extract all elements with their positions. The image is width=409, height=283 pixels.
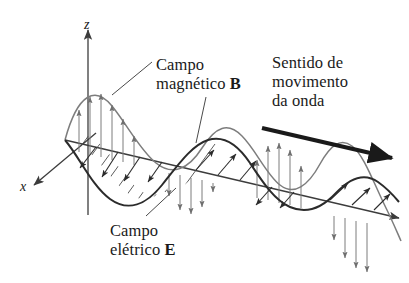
- x-axis-label: x: [20, 180, 26, 194]
- magnetic-vectors-lobe-4: [334, 216, 367, 272]
- magnetic-field-label-line2: magnético B: [156, 74, 241, 93]
- electric-field-wave: [60, 120, 399, 230]
- magnetic-field-label-line1: Campo: [156, 55, 241, 74]
- wave-direction-label-line1: Sentido de: [272, 53, 348, 72]
- magnetic-field-label: Campo magnético B: [156, 55, 241, 93]
- magnetic-field-label-word: magnético: [156, 74, 226, 93]
- electric-vectors: [80, 147, 390, 210]
- electric-field-label-line1: Campo: [110, 221, 176, 240]
- electric-field-label: Campo elétrico E: [110, 221, 176, 259]
- wave-direction-label: Sentido de movimento da onda: [272, 53, 348, 110]
- magnetic-wave-curve: [65, 95, 401, 241]
- electric-field-symbol: E: [160, 240, 175, 259]
- electric-field-label-line2: elétrico E: [110, 240, 176, 259]
- electromagnetic-wave-figure: z x Campo magnético B Sentido de movimen…: [0, 0, 409, 283]
- propagation-axis-line: [65, 140, 399, 218]
- magnetic-symbol-leader: [196, 97, 206, 143]
- magnetic-vectors-lobe-3: [257, 143, 301, 208]
- magnetic-field-symbol: B: [226, 74, 241, 93]
- magnetic-label-leader: [112, 62, 152, 95]
- wave-direction-label-line2: movimento: [272, 72, 348, 91]
- electric-label-leader: [146, 188, 176, 216]
- wave-direction-label-line3: da onda: [272, 91, 348, 110]
- electric-field-label-word: elétrico: [110, 240, 160, 259]
- figure-canvas: [0, 0, 409, 283]
- magnetic-vectors-lobe-2: [169, 173, 213, 214]
- z-axis-label: z: [84, 18, 89, 32]
